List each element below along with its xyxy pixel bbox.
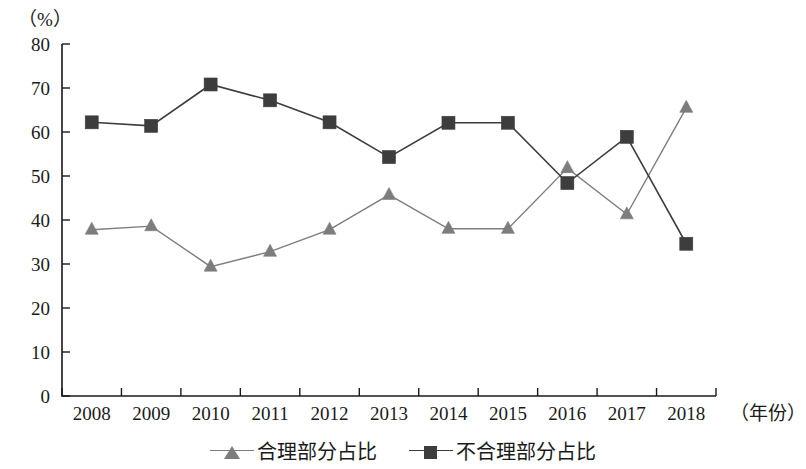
x-axis-title: （年份）: [730, 398, 806, 425]
x-tick-label: 2017: [608, 403, 646, 424]
chart-container: （%） 01020304050607080 200820092010201120…: [0, 0, 806, 469]
y-axis-ticks: 01020304050607080: [31, 34, 70, 407]
triangle-data-point: [561, 161, 574, 173]
x-tick-label: 2013: [370, 403, 408, 424]
x-tick-label: 2015: [489, 403, 527, 424]
triangle-data-point: [620, 207, 633, 219]
x-tick-label: 2012: [311, 403, 349, 424]
series-line: [92, 84, 687, 243]
triangle-data-point: [323, 222, 336, 234]
square-marker-icon: [409, 443, 453, 459]
square-data-point: [204, 78, 217, 91]
x-axis-ticks: 2008200920102011201220132014201520162017…: [62, 388, 716, 424]
x-tick-label: 2009: [132, 403, 170, 424]
legend-label-reasonable: 合理部分占比: [257, 436, 377, 465]
data-series-group: [85, 78, 693, 271]
y-tick-label: 20: [31, 298, 50, 319]
x-tick-label: 2008: [73, 403, 111, 424]
triangle-data-point: [442, 221, 455, 233]
square-data-point: [561, 177, 574, 190]
triangle-data-point: [680, 100, 693, 112]
x-tick-label: 2018: [667, 403, 705, 424]
square-data-point: [85, 116, 98, 129]
legend-label-unreasonable: 不合理部分占比: [456, 436, 596, 465]
triangle-data-point: [85, 222, 98, 234]
triangle-marker-icon: [210, 443, 254, 459]
y-tick-label: 40: [31, 210, 50, 231]
chart-plot-area: 01020304050607080 2008200920102011201220…: [0, 0, 806, 469]
square-data-point: [442, 116, 455, 129]
legend-square-2: [424, 446, 437, 459]
data-series: [85, 78, 693, 250]
y-tick-label: 70: [31, 78, 50, 99]
data-series: [85, 100, 693, 271]
y-tick-label: 50: [31, 166, 50, 187]
y-tick-label: 0: [41, 386, 51, 407]
square-data-point: [383, 151, 396, 164]
y-tick-label: 30: [31, 254, 50, 275]
square-data-point: [680, 237, 693, 250]
x-tick-label: 2016: [548, 403, 586, 424]
x-tick-label: 2010: [192, 403, 230, 424]
legend-item-reasonable[interactable]: 合理部分占比: [210, 436, 377, 465]
triangle-data-point: [383, 187, 396, 199]
y-tick-label: 10: [31, 342, 50, 363]
x-tick-label: 2014: [429, 403, 468, 424]
y-tick-label: 80: [31, 34, 50, 55]
y-tick-label: 60: [31, 122, 50, 143]
chart-legend: 合理部分占比 不合理部分占比: [0, 436, 806, 465]
square-data-point: [323, 116, 336, 129]
square-data-point: [501, 116, 514, 129]
square-data-point: [145, 119, 158, 132]
square-data-point: [620, 130, 633, 143]
axis-lines: [62, 44, 716, 396]
triangle-data-point: [145, 219, 158, 231]
legend-triangle-1: [224, 446, 240, 459]
legend-item-unreasonable[interactable]: 不合理部分占比: [409, 436, 596, 465]
x-tick-label: 2011: [251, 403, 288, 424]
square-data-point: [264, 94, 277, 107]
